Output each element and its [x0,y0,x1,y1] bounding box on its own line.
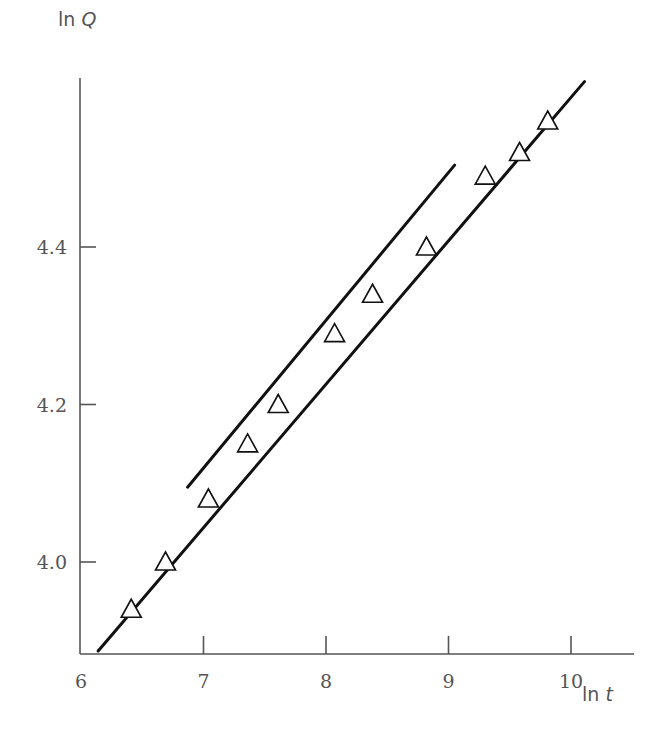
triangle-marker [198,489,218,507]
x-tick-label: 8 [320,670,332,692]
triangle-marker [416,237,436,255]
triangle-marker [538,111,558,129]
x-tick-label: 9 [442,670,454,692]
triangle-marker [238,434,258,452]
data-markers [121,111,557,617]
axes: 6789104.04.24.4 [37,78,634,692]
fit-line [188,165,455,487]
x-tick-label: 6 [75,670,87,692]
y-axis-title: ln Q [58,8,96,30]
x-tick-label: 10 [559,670,583,692]
y-tick-label: 4.4 [37,236,67,258]
triangle-marker [268,395,288,413]
x-tick-label: 7 [197,670,209,692]
y-tick-label: 4.0 [37,551,67,573]
triangle-marker [363,284,383,302]
triangle-marker [325,324,345,342]
chart: 6789104.04.24.4 ln Q ln t [0,0,671,739]
y-tick-label: 4.2 [37,394,67,416]
triangle-marker [156,552,176,570]
triangle-marker [475,166,495,184]
x-axis-title: ln t [582,683,614,705]
